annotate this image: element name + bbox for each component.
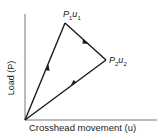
- point-label-p2: P2u2: [109, 55, 127, 67]
- x-axis-label: Crosshead movement (u): [29, 122, 136, 133]
- load-displacement-diagram: [0, 0, 163, 134]
- y-axis-label: Load (P): [6, 53, 16, 103]
- arrow-down-right-icon: [83, 39, 90, 44]
- point-label-p1: P1u1: [63, 9, 81, 21]
